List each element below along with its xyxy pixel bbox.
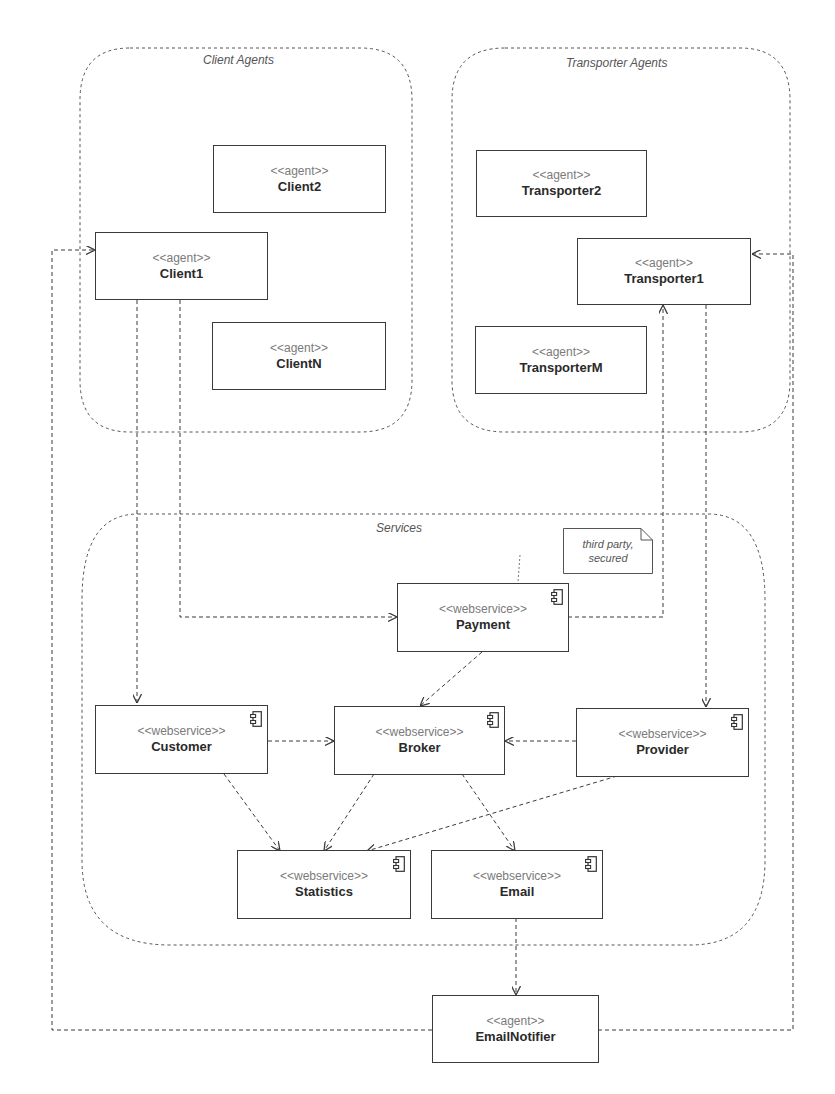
service-broker[interactable]: <<webservice>> Broker bbox=[334, 706, 505, 775]
transporter-agents-label: Transporter Agents bbox=[566, 56, 667, 70]
connector-provider-statistics bbox=[367, 776, 617, 851]
note-line-1: third party, bbox=[582, 537, 633, 551]
service-name: Broker bbox=[399, 740, 441, 756]
stereotype-label: <<agent>> bbox=[486, 1014, 544, 1029]
agent-name: Client1 bbox=[160, 266, 203, 282]
connector-broker-statistics bbox=[324, 774, 374, 851]
agent-name: ClientN bbox=[276, 356, 322, 372]
component-icon bbox=[250, 711, 262, 727]
note-line-2: secured bbox=[588, 551, 627, 565]
stereotype-label: <<agent>> bbox=[270, 341, 328, 356]
service-name: Statistics bbox=[295, 884, 353, 900]
stereotype-label: <<agent>> bbox=[270, 164, 328, 179]
agent-name: Transporter2 bbox=[522, 183, 601, 199]
agent-email-notifier[interactable]: <<agent>> EmailNotifier bbox=[432, 995, 599, 1063]
stereotype-label: <<agent>> bbox=[152, 251, 210, 266]
service-statistics[interactable]: <<webservice>> Statistics bbox=[237, 850, 411, 919]
service-payment[interactable]: <<webservice>> Payment bbox=[397, 583, 569, 652]
stereotype-label: <<webservice>> bbox=[280, 869, 368, 884]
service-name: Payment bbox=[456, 617, 510, 633]
service-customer[interactable]: <<webservice>> Customer bbox=[95, 705, 268, 774]
service-name: Provider bbox=[636, 742, 689, 758]
component-icon bbox=[585, 856, 597, 872]
agent-name: Transporter1 bbox=[624, 271, 703, 287]
connector-customer-statistics bbox=[224, 774, 280, 851]
component-icon bbox=[393, 856, 405, 872]
stereotype-label: <<webservice>> bbox=[473, 869, 561, 884]
agent-client2[interactable]: <<agent>> Client2 bbox=[213, 145, 386, 213]
stereotype-label: <<agent>> bbox=[635, 256, 693, 271]
connector-payment-broker bbox=[420, 652, 482, 706]
service-provider[interactable]: <<webservice>> Provider bbox=[576, 708, 749, 777]
stereotype-label: <<webservice>> bbox=[375, 725, 463, 740]
client-agents-label: Client Agents bbox=[203, 53, 274, 67]
connector-broker-email bbox=[462, 774, 515, 851]
stereotype-label: <<agent>> bbox=[532, 345, 590, 360]
stereotype-label: <<agent>> bbox=[532, 168, 590, 183]
diagram-canvas bbox=[0, 0, 835, 1094]
service-email[interactable]: <<webservice>> Email bbox=[431, 850, 603, 919]
service-name: Customer bbox=[151, 739, 212, 755]
agent-transporter1[interactable]: <<agent>> Transporter1 bbox=[577, 238, 751, 305]
component-icon bbox=[551, 589, 563, 605]
agent-name: TransporterM bbox=[519, 360, 602, 376]
component-icon bbox=[731, 714, 743, 730]
stereotype-label: <<webservice>> bbox=[439, 602, 527, 617]
agent-client1[interactable]: <<agent>> Client1 bbox=[95, 232, 268, 300]
services-label: Services bbox=[376, 521, 422, 535]
note-third-party: third party, secured bbox=[563, 528, 653, 574]
agent-name: Client2 bbox=[278, 179, 321, 195]
agent-name: EmailNotifier bbox=[475, 1029, 555, 1045]
service-name: Email bbox=[500, 884, 535, 900]
agent-clientN[interactable]: <<agent>> ClientN bbox=[212, 322, 386, 390]
component-icon bbox=[487, 712, 499, 728]
agent-transporter2[interactable]: <<agent>> Transporter2 bbox=[476, 150, 647, 217]
stereotype-label: <<webservice>> bbox=[618, 727, 706, 742]
note-anchor-line bbox=[518, 555, 520, 582]
stereotype-label: <<webservice>> bbox=[137, 724, 225, 739]
agent-transporterM[interactable]: <<agent>> TransporterM bbox=[475, 326, 647, 394]
